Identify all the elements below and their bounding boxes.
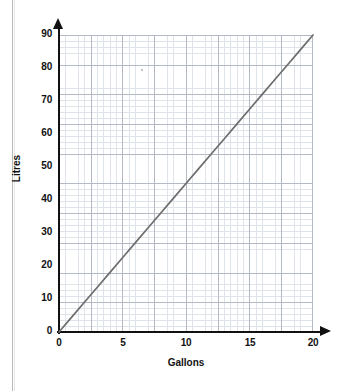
x-axis-line (57, 331, 321, 333)
scan-speck-artifact (141, 69, 143, 71)
y-axis-line (58, 28, 60, 334)
x-tick-label-20: 20 (300, 337, 326, 348)
x-tick-label-15: 15 (237, 337, 263, 348)
x-tick-label-5: 5 (110, 337, 136, 348)
y-tick-label-60: 60 (26, 127, 52, 138)
y-tick-label-70: 70 (26, 94, 52, 105)
y-tick-label-80: 80 (26, 61, 52, 72)
x-tick-label-0: 0 (46, 337, 72, 348)
plot-area (59, 35, 313, 332)
gallons-to-litres-line-chart: 90 80 70 60 50 40 30 20 10 0 0 5 10 15 2… (0, 0, 338, 391)
y-tick-label-40: 40 (26, 193, 52, 204)
y-tick-label-30: 30 (26, 226, 52, 237)
y-tick-label-20: 20 (26, 259, 52, 270)
y-tick-label-90: 90 (26, 28, 52, 39)
plot-area-border (59, 35, 313, 332)
y-axis-arrowhead-icon (53, 18, 63, 29)
x-axis-title: Gallons (131, 357, 241, 368)
y-axis-title: Litres (11, 139, 22, 199)
x-axis-arrowhead-icon (320, 326, 331, 336)
y-tick-label-0: 0 (26, 325, 52, 336)
y-tick-label-50: 50 (26, 160, 52, 171)
x-tick-label-10: 10 (173, 337, 199, 348)
y-tick-label-10: 10 (26, 292, 52, 303)
